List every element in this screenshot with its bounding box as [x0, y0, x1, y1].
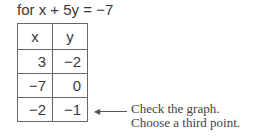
cell-x: −7: [18, 74, 53, 98]
table-header-row: x y: [18, 24, 88, 50]
header-x: x: [18, 24, 53, 50]
arrow-left-icon: ◀: [94, 108, 100, 115]
table-row: −7 0: [18, 74, 88, 98]
cell-y: −2: [53, 50, 88, 74]
cell-x: 3: [18, 50, 53, 74]
table-row: −2 −1: [18, 98, 88, 122]
equation-heading: for x + 5y = −7: [17, 0, 113, 20]
xy-table: x y 3 −2 −7 0 −2 −1: [17, 23, 88, 122]
annotation-line-1: Check the graph.: [131, 102, 240, 116]
cell-x: −2: [18, 98, 53, 122]
annotation-line-2: Choose a third point.: [131, 116, 240, 130]
header-y: y: [53, 24, 88, 50]
cell-y: −1: [53, 98, 88, 122]
table-row: 3 −2: [18, 50, 88, 74]
cell-y: 0: [53, 74, 88, 98]
annotation-note: Check the graph. Choose a third point.: [131, 102, 240, 130]
